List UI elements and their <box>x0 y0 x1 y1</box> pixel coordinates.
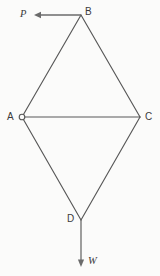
force-label-P: P <box>20 9 26 20</box>
force-label-W: W <box>88 256 97 267</box>
truss-diagram-figure: A B C D P W <box>0 0 160 276</box>
vertex-label-A: A <box>7 112 14 122</box>
member-BC <box>81 15 140 117</box>
vertex-label-D: D <box>67 214 74 224</box>
force-arrow-W <box>78 220 84 267</box>
vertex-label-B: B <box>85 7 92 17</box>
force-P-arrowhead <box>34 12 41 18</box>
force-W-arrowhead <box>78 260 84 268</box>
member-CD <box>81 117 140 220</box>
member-AD <box>22 117 81 220</box>
vertex-label-C: C <box>145 112 152 122</box>
truss-members <box>22 15 140 220</box>
pin-support-marker-A <box>19 114 25 120</box>
force-arrow-P <box>34 12 81 18</box>
member-AB <box>22 15 81 117</box>
diagram-canvas <box>0 0 160 276</box>
